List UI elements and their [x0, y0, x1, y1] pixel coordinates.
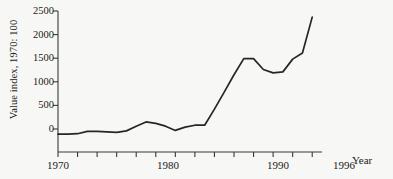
x-tick-label-1990: 1990	[258, 160, 298, 171]
y-axis-label: Value index, 1970: 100	[8, 5, 19, 135]
line-chart: Value index, 1970: 100 Year 2500 2000 15…	[0, 0, 393, 179]
x-tick-label-1970: 1970	[38, 160, 78, 171]
y-tick-label-500: 500	[38, 100, 54, 110]
x-tick-marks	[58, 152, 312, 157]
plot-area	[0, 0, 393, 179]
y-tick-label-1500: 1500	[33, 53, 54, 63]
y-tick-label-2000: 2000	[33, 30, 54, 40]
y-tick-label-2500: 2500	[33, 6, 54, 16]
y-tick-label-0: 0	[49, 124, 54, 134]
x-tick-label-1980: 1980	[148, 160, 188, 171]
data-series-line	[58, 17, 312, 134]
y-tick-label-1000: 1000	[33, 77, 54, 87]
x-tick-label-1996: 1996	[324, 160, 364, 171]
